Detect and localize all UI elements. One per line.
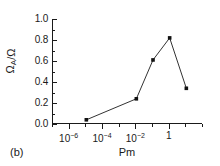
y-axis-tick-label: 0.4 bbox=[22, 77, 48, 87]
x-axis-tick-label: 10−6 bbox=[59, 130, 78, 144]
x-axis-tick-label-exponent: −2 bbox=[137, 132, 145, 139]
data-point-marker bbox=[85, 118, 89, 122]
x-axis-tick-label: 10−2 bbox=[126, 130, 145, 144]
x-axis-tick-label-base: 10 bbox=[59, 133, 70, 144]
x-axis-tick-label-exponent: −6 bbox=[70, 132, 78, 139]
y-axis-minor-tick-mark bbox=[52, 51, 55, 52]
x-axis-tick-mark bbox=[135, 124, 136, 129]
x-axis-tick-label: 1 bbox=[166, 130, 172, 141]
y-axis-tick-mark bbox=[52, 103, 57, 104]
y-axis-tick-label: 0.6 bbox=[22, 56, 48, 66]
panel-label: (b) bbox=[10, 146, 23, 158]
y-axis-minor-tick-mark bbox=[52, 72, 55, 73]
x-axis-minor-tick-mark bbox=[119, 124, 120, 127]
y-axis-title-slash: / bbox=[5, 57, 17, 60]
x-axis-minor-tick-mark bbox=[85, 124, 86, 127]
x-axis-tick-mark bbox=[69, 124, 70, 129]
data-point-marker bbox=[151, 58, 155, 62]
x-axis-minor-tick-mark bbox=[152, 124, 153, 127]
data-point-marker bbox=[135, 97, 139, 101]
x-axis-minor-tick-mark bbox=[202, 124, 203, 127]
y-axis-title-subscript: A bbox=[9, 60, 18, 65]
y-axis-tick-mark bbox=[52, 61, 57, 62]
x-axis-tick-mark bbox=[102, 124, 103, 129]
y-axis-tick-mark bbox=[52, 19, 57, 20]
y-axis-tick-mark bbox=[52, 82, 57, 83]
x-axis-tick-label-exponent: −4 bbox=[104, 132, 112, 139]
plot-area bbox=[52, 19, 202, 124]
x-axis-tick-label-base: 10 bbox=[126, 133, 137, 144]
x-axis-title: Pm bbox=[52, 146, 202, 158]
y-axis-tick-labels: 1.00.80.60.40.20.0 bbox=[18, 0, 48, 166]
y-axis-title: ΩA/Ω bbox=[2, 31, 20, 91]
x-axis-minor-tick-mark bbox=[185, 124, 186, 127]
x-axis-tick-label: 10−4 bbox=[92, 130, 111, 144]
x-axis-minor-tick-mark bbox=[52, 124, 53, 127]
data-point-marker bbox=[168, 36, 172, 40]
y-axis-tick-label: 1.0 bbox=[22, 14, 48, 24]
y-axis-tick-label: 0.0 bbox=[22, 119, 48, 129]
y-axis-tick-label: 0.2 bbox=[22, 98, 48, 108]
x-axis-tick-label-base: 10 bbox=[92, 133, 103, 144]
data-point-marker bbox=[185, 87, 189, 91]
x-axis-tick-mark bbox=[169, 124, 170, 129]
data-series-line bbox=[53, 19, 203, 124]
y-axis-tick-mark bbox=[52, 40, 57, 41]
y-axis-tick-label: 0.8 bbox=[22, 35, 48, 45]
data-line bbox=[86, 38, 186, 120]
y-axis-minor-tick-mark bbox=[52, 93, 55, 94]
y-axis-title-omega-a: ΩA bbox=[4, 60, 18, 74]
y-axis-minor-tick-mark bbox=[52, 114, 55, 115]
y-axis-minor-tick-mark bbox=[52, 30, 55, 31]
y-axis-title-omega: Ω bbox=[5, 49, 17, 57]
figure-panel-b: 1.00.80.60.40.20.0 ΩA/Ω Pm (b) 10−610−41… bbox=[0, 0, 220, 166]
